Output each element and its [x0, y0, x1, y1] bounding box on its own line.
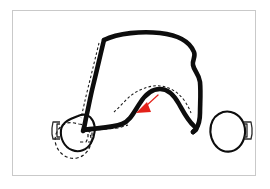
figure-root: Transpalatal arch appliance diagram [0, 0, 270, 189]
palatal-arch-wire-left-limb [83, 40, 104, 131]
right-molar-band-ring [210, 111, 245, 151]
left-molar-band-ring [61, 115, 95, 152]
left-band-tab-inner-icon [57, 124, 60, 137]
appliance-diagram [0, 0, 270, 189]
